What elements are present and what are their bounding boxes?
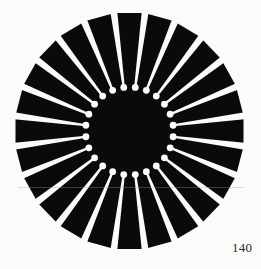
inner-black-disk [84, 85, 176, 177]
spoke-dot [99, 163, 106, 170]
spoke-dot [143, 87, 150, 94]
spoke-dot [85, 111, 92, 118]
spoke-dot [82, 122, 89, 129]
spoke-dot [167, 144, 174, 151]
spoke-dot [161, 154, 168, 161]
spoke-dot [132, 171, 139, 178]
book-page: 140 [0, 0, 261, 269]
spoke-dot [85, 144, 92, 151]
spoke-dot [170, 133, 177, 140]
spoke-dot [161, 101, 168, 108]
spoke-dot [91, 101, 98, 108]
spoke-dot [91, 154, 98, 161]
spoke-dot [143, 168, 150, 175]
spoke-dot [82, 133, 89, 140]
spoke-dot [170, 122, 177, 129]
spoke-dot [120, 171, 127, 178]
spoke-dot [132, 84, 139, 91]
spoke-dot [153, 93, 160, 100]
page-number: 140 [232, 240, 252, 256]
spoke-dot [99, 93, 106, 100]
spoke-dot [109, 168, 116, 175]
spoke-dot [120, 84, 127, 91]
sunburst-figure [0, 0, 261, 269]
scan-artifact-line [18, 187, 244, 188]
spoke-dot [153, 163, 160, 170]
spoke-dot [167, 111, 174, 118]
spoke-dot [109, 87, 116, 94]
